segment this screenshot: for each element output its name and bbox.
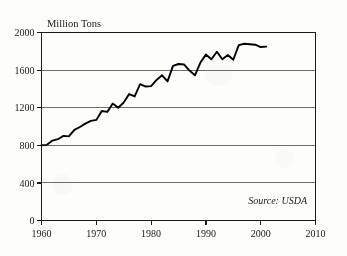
x-tick-label-1970: 1970 xyxy=(86,228,106,239)
y-axis-title: Million Tons xyxy=(47,18,101,29)
y-tick-label-1600: 1600 xyxy=(15,65,35,76)
x-tick-label-2000: 2000 xyxy=(251,228,271,239)
plot-frame xyxy=(42,33,316,221)
x-tick-label-2010: 2010 xyxy=(306,228,326,239)
x-tick-label-1960: 1960 xyxy=(32,228,52,239)
data-line-grain-production xyxy=(42,44,267,146)
x-tick-label-1980: 1980 xyxy=(141,228,161,239)
y-tick-label-800: 800 xyxy=(20,140,35,151)
y-tick-label-2000: 2000 xyxy=(15,27,35,38)
y-tick-label-400: 400 xyxy=(20,178,35,189)
chart-figure: 0400800120016002000 19601970198019902000… xyxy=(0,0,347,256)
y-tick-label-0: 0 xyxy=(30,215,35,226)
source-annotation: Source: USDA xyxy=(248,195,308,206)
line-chart-canvas: 0400800120016002000 19601970198019902000… xyxy=(0,0,347,256)
x-tick-labels-group: 196019701980199020002010 xyxy=(32,228,326,239)
x-tick-label-1990: 1990 xyxy=(196,228,216,239)
gridlines-group xyxy=(42,70,316,183)
y-tick-labels-group: 0400800120016002000 xyxy=(15,27,35,226)
y-tick-label-1200: 1200 xyxy=(15,102,35,113)
